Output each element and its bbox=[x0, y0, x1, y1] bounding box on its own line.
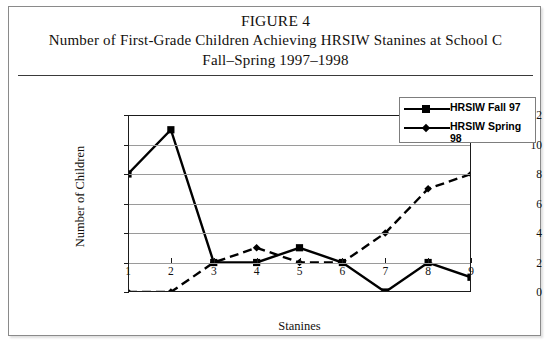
x-axis-tick-mark bbox=[300, 258, 301, 263]
x-axis-tick-mark bbox=[171, 258, 172, 263]
x-axis-tick-mark bbox=[428, 258, 429, 263]
figure-frame: FIGURE 4 Number of First-Grade Children … bbox=[8, 6, 541, 336]
y-axis-tick-label: 2 bbox=[516, 257, 542, 269]
y-axis-tick-label: 8 bbox=[516, 168, 542, 180]
legend-label-spring-98: HRSIW Spring 98 bbox=[450, 121, 534, 143]
y-axis-label: Number of Children bbox=[73, 122, 88, 272]
figure-subtitle: Fall–Spring 1997–1998 bbox=[9, 50, 542, 70]
x-axis-tick-label: 1 bbox=[118, 265, 138, 277]
x-axis-tick-label: 7 bbox=[375, 265, 395, 277]
legend-item-spring-98[interactable]: HRSIW Spring 98 bbox=[404, 121, 534, 143]
y-axis-tick-label: 4 bbox=[516, 227, 542, 239]
x-axis-tick-label: 9 bbox=[461, 265, 481, 277]
x-axis-tick-label: 8 bbox=[418, 265, 438, 277]
chart-legend: HRSIW Fall 97 HRSIW Spring 98 bbox=[399, 97, 536, 143]
x-axis-tick-mark bbox=[257, 258, 258, 263]
x-axis-tick-mark bbox=[214, 258, 215, 263]
legend-item-fall-97[interactable]: HRSIW Fall 97 bbox=[404, 102, 534, 115]
x-axis-tick-label: 2 bbox=[161, 265, 181, 277]
x-axis-tick-label: 5 bbox=[290, 265, 310, 277]
y-axis-tick-mark bbox=[124, 233, 129, 234]
x-axis-tick-mark bbox=[342, 258, 343, 263]
y-axis-tick-mark bbox=[124, 292, 129, 293]
chart-area: Number of Children Stanines HRSIW Fall 9… bbox=[9, 81, 542, 336]
x-axis-tick-mark bbox=[471, 258, 472, 263]
y-axis-tick-label: 0 bbox=[516, 286, 542, 298]
x-axis-label: Stanines bbox=[128, 319, 471, 334]
diamond-marker-icon bbox=[404, 122, 450, 134]
figure-title-block: FIGURE 4 Number of First-Grade Children … bbox=[9, 11, 542, 70]
y-axis-tick-mark bbox=[124, 174, 129, 175]
x-axis-tick-label: 6 bbox=[332, 265, 352, 277]
y-axis-tick-mark bbox=[124, 115, 129, 116]
x-axis-tick-label: 4 bbox=[247, 265, 267, 277]
y-axis-tick-mark bbox=[124, 145, 129, 146]
x-axis-tick-label: 3 bbox=[204, 265, 224, 277]
square-marker-icon bbox=[404, 103, 450, 115]
x-axis-tick-mark bbox=[385, 258, 386, 263]
y-axis-tick-label: 6 bbox=[516, 198, 542, 210]
y-axis-tick-mark bbox=[124, 204, 129, 205]
figure-title: Number of First-Grade Children Achieving… bbox=[9, 30, 542, 50]
legend-label-fall-97: HRSIW Fall 97 bbox=[450, 102, 534, 114]
x-axis-tick-mark bbox=[128, 258, 129, 263]
figure-number: FIGURE 4 bbox=[9, 11, 542, 30]
title-divider bbox=[18, 75, 533, 76]
